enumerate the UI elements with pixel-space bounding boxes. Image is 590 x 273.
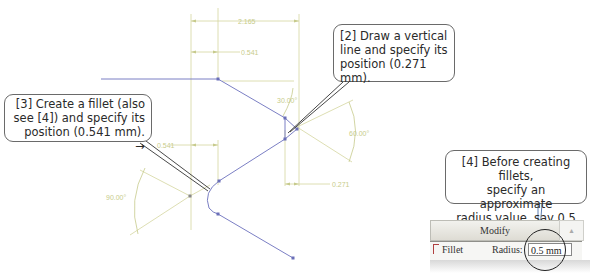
fillet-icon [433, 244, 439, 254]
callout-step-3: [3] Create a fillet (also see [4]) and s… [4, 94, 152, 142]
callout-step-2-line-1: [2] Draw a vertical [340, 29, 448, 43]
dim-overall-width[interactable]: 2.165 [238, 18, 256, 25]
sketch-points[interactable] [189, 78, 299, 260]
modify-panel: Modify ▴ Fillet Radius: 0.5 mm [430, 218, 590, 273]
callout-step-3-line-3: position (0.541 mm). → [11, 125, 145, 153]
callout-step-2-line-3: position (0.271 mm). [340, 57, 448, 85]
callout-step-3-line-1: [3] Create a fillet (also [11, 97, 145, 111]
fillet-tool[interactable]: Fillet [433, 244, 463, 255]
dim-offset-left[interactable]: 0.541 [157, 142, 175, 149]
highlight-circle [524, 229, 566, 271]
callout-step-4-line-2: specify an approximate [452, 183, 580, 211]
callout-step-4: [4] Before creating fillets, specify an … [445, 150, 587, 204]
panel-shadow [430, 260, 590, 273]
dim-angle-90[interactable]: 90.00° [106, 194, 127, 201]
fillet-label: Fillet [442, 244, 463, 255]
callout-step-3-line-2: see [4]) and specify its [11, 111, 145, 125]
callout-step-4-line-1: [4] Before creating fillets, [452, 155, 580, 183]
angle-arcs [134, 88, 355, 234]
callout-step-2: [2] Draw a vertical line and specify its… [333, 24, 455, 82]
dimension-lines [130, 8, 353, 235]
dim-angle-30[interactable]: 30.00° [277, 97, 298, 104]
dim-offset-bottom[interactable]: 0.271 [332, 181, 350, 188]
radius-label: Radius: [492, 244, 523, 255]
callout-step-2-line-2: line and specify its [340, 43, 448, 57]
dim-offset-top[interactable]: 0.541 [241, 49, 259, 56]
dim-angle-60[interactable]: 60.00° [349, 130, 370, 137]
